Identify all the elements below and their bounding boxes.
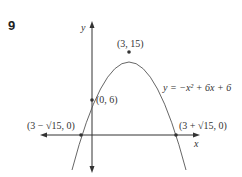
left-root-point <box>79 133 83 137</box>
vertex-point <box>127 50 131 54</box>
arrow-right-icon <box>193 133 200 138</box>
arrow-down-icon <box>90 166 95 173</box>
right-root-point <box>174 133 178 137</box>
arrow-left-icon <box>40 133 47 138</box>
y-intercept-label: (0, 6) <box>96 94 118 106</box>
right-root-label: (3 + √15, 0) <box>179 120 227 132</box>
y-intercept-point <box>90 98 94 102</box>
vertex-label: (3, 15) <box>117 38 144 50</box>
left-root-label: (3 − √15, 0) <box>27 120 75 132</box>
problem-number: 9 <box>8 18 15 33</box>
parabola-diagram: 9 y x (3, 15) (0, 6) (3 − √15, 0) (3 + √… <box>0 0 242 177</box>
arrow-up-icon <box>90 21 95 28</box>
x-axis-label: x <box>193 138 199 149</box>
y-axis <box>90 21 95 173</box>
parabola-curve <box>72 62 186 170</box>
y-axis-label: y <box>80 22 86 33</box>
equation-label: y = −x² + 6x + 6 <box>162 82 231 93</box>
